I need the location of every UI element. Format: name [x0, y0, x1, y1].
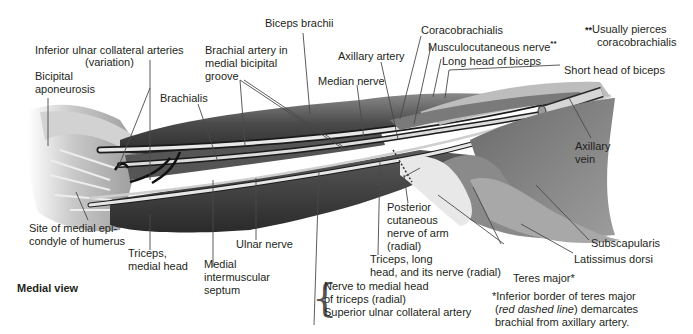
note-double-asterisk: **Usually pierces [585, 23, 667, 37]
label-superior-ulnar-collateral-artery: Superior ulnar collateral artery [324, 306, 471, 319]
label-triceps-long-head-1: Triceps, long [370, 253, 433, 266]
label-medial-septum-2: intermuscular [204, 271, 270, 284]
label-site-medial-epicondyle-1: Site of medial epi- [29, 222, 117, 235]
label-brachial-artery-2: medial bicipital [205, 57, 277, 70]
note-double-asterisk-line2: coracobrachialis [597, 36, 676, 49]
label-inferior-ulnar-collateral-arteries: Inferior ulnar collateral arteries [35, 44, 184, 57]
label-ulnar-nerve: Ulnar nerve [236, 238, 293, 251]
label-medial-septum-3: septum [204, 284, 240, 297]
anatomy-figure-medial-arm: Biceps brachii Inferior ulnar collateral… [0, 0, 693, 334]
label-bicipital-aponeurosis-1: Bicipital [35, 70, 73, 83]
note-single-asterisk-1: *Inferior border of teres major [492, 290, 636, 303]
label-coracobrachialis: Coracobrachialis [421, 24, 503, 37]
label-brachialis: Brachialis [160, 92, 208, 105]
label-triceps-long-head-2: head, and its nerve (radial) [370, 266, 501, 279]
label-triceps-medial-head-1: Triceps, [128, 247, 167, 260]
label-musculocutaneous-nerve: Musculocutaneous nerve** [428, 38, 557, 53]
label-nerve-medial-head-2: of triceps (radial) [324, 293, 406, 306]
label-posterior-cutaneous-2: cutaneous [387, 214, 438, 227]
label-short-head-of-biceps: Short head of biceps [564, 64, 665, 77]
label-subscapularis: Subscapularis [591, 237, 660, 250]
label-median-nerve: Median nerve [318, 75, 385, 88]
label-biceps-brachii: Biceps brachii [265, 17, 333, 30]
label-bicipital-aponeurosis-2: aponeurosis [35, 83, 95, 96]
label-long-head-of-biceps: Long head of biceps [442, 55, 541, 68]
note-single-asterisk-3: brachial from axillary artery. [495, 316, 629, 329]
label-triceps-medial-head-2: medial head [128, 260, 188, 273]
label-brachial-artery-1: Brachial artery in [205, 44, 288, 57]
label-brachial-artery-3: groove [205, 70, 239, 83]
label-medial-view: Medial view [17, 282, 78, 295]
label-teres-major: Teres major* [513, 272, 575, 285]
label-axillary-vein-1: Axillary [575, 140, 610, 153]
label-posterior-cutaneous-1: Posterior [387, 201, 431, 214]
label-nerve-medial-head-1: Nerve to medial head [324, 280, 429, 293]
label-medial-septum-1: Medial [204, 258, 236, 271]
label-posterior-cutaneous-4: (radial) [387, 240, 421, 253]
note-single-asterisk-2: (red dashed line) demarcates [495, 303, 638, 316]
label-axillary-vein-2: vein [575, 153, 595, 166]
label-posterior-cutaneous-3: nerve of arm [387, 227, 449, 240]
label-latissimus-dorsi: Latissimus dorsi [574, 253, 653, 266]
label-inferior-ulnar-variation: (variation) [85, 56, 134, 69]
label-site-medial-epicondyle-2: condyle of humerus [29, 235, 125, 248]
label-axillary-artery: Axillary artery [338, 50, 405, 63]
